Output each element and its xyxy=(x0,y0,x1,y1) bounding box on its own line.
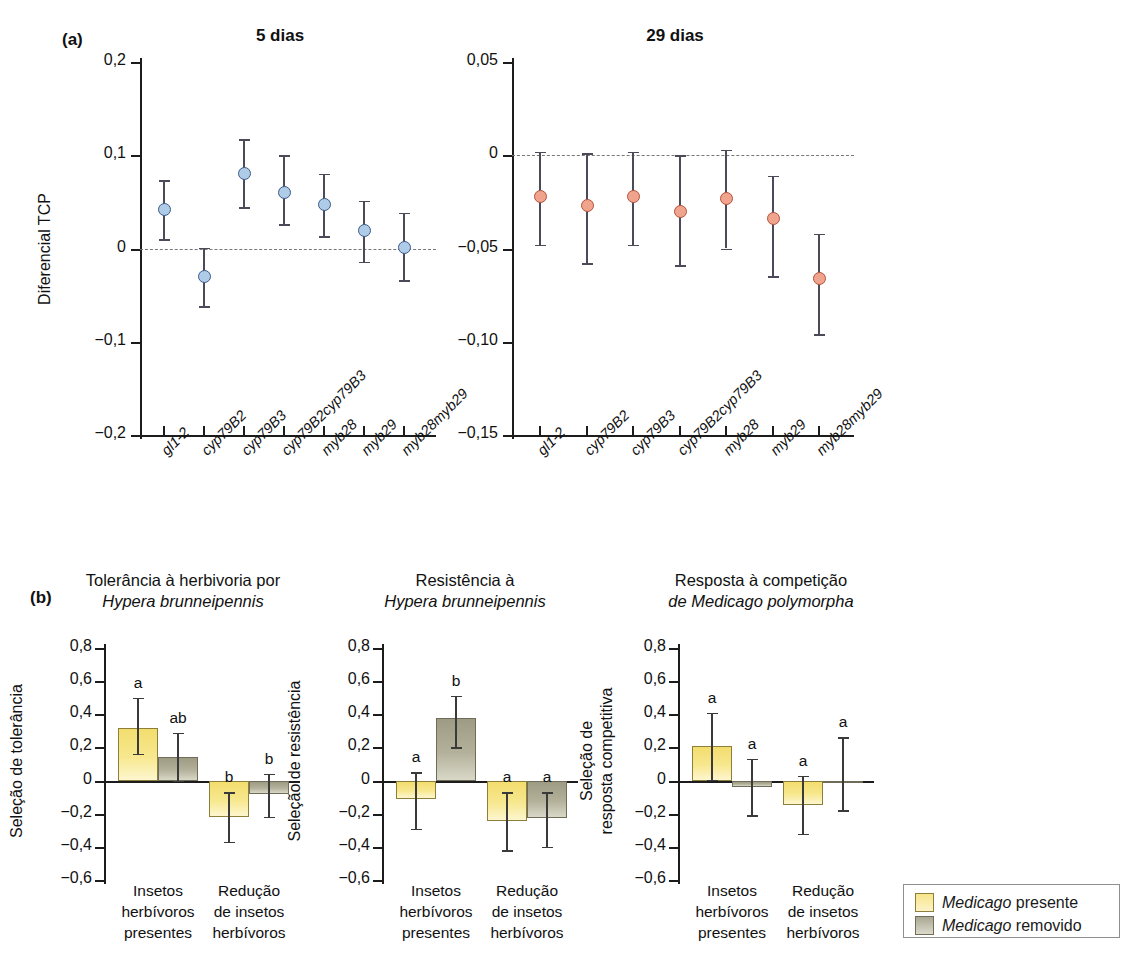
panel-b-sig-letter-0-0-0: a xyxy=(118,674,158,692)
panel-b-errorbar-cap-top-0-0-1 xyxy=(173,733,184,734)
panel-b-title-0: Tolerância à herbivoria por xyxy=(48,570,318,591)
panel-a-xtick-label-1-2: cyp79B3 xyxy=(627,407,678,458)
panel-a-xtick-label-1-3: cyp79B2cyp79B3 xyxy=(674,367,765,458)
legend-swatch-medicago-presente xyxy=(915,893,934,912)
panel-b-ytick-1-6 xyxy=(373,847,382,849)
panel-b-errorbar-cap-top-0-1-0 xyxy=(224,792,235,793)
panel-b-y-axis-1 xyxy=(382,644,384,884)
panel-a-errorbar-cap-top-1-1 xyxy=(582,153,593,154)
panel-b-errorbar-2-1-0 xyxy=(802,776,803,834)
panel-a-xtick-1-1 xyxy=(586,426,588,435)
panel-a-ytick-0-1 xyxy=(131,155,140,157)
panel-b-ytick-label-1-5: −0,2 xyxy=(308,803,370,821)
panel-a-errorbar-cap-top-0-2 xyxy=(239,139,250,140)
panel-b-title-1: Resistência à xyxy=(330,570,600,591)
panel-b-sig-letter-1-0-1: b xyxy=(436,672,476,690)
panel-a-datapoint-1-4 xyxy=(720,192,733,205)
panel-a-errorbar-cap-bottom-1-6 xyxy=(814,334,825,335)
panel-b-errorbar-cap-bottom-0-0-0 xyxy=(133,754,144,755)
panel-a-ytick-label-1-2: −0,05 xyxy=(426,238,498,256)
panel-b-ylabel-0: Seleção de tolerância xyxy=(8,648,26,874)
panel-b-errorbar-0-0-1 xyxy=(177,733,178,781)
panel-a-title-1: 29 dias xyxy=(512,26,838,46)
panel-b-sig-letter-2-1-0: a xyxy=(783,752,823,770)
panel-a-ytick-1-0 xyxy=(503,62,512,64)
panel-b-ytick-label-0-7: −0,6 xyxy=(30,869,92,887)
panel-a-errorbar-cap-bottom-0-0 xyxy=(159,239,170,240)
panel-a-xtick-label-1-1: cyp79B2 xyxy=(581,407,632,458)
panel-b-errorbar-0-1-0 xyxy=(228,792,229,842)
panel-b-errorbar-cap-top-2-0-1 xyxy=(747,759,758,760)
panel-b-sig-letter-2-0-1: a xyxy=(732,735,772,753)
panel-b-errorbar-cap-bottom-2-0-1 xyxy=(747,815,758,816)
panel-b-errorbar-cap-bottom-0-1-1 xyxy=(264,817,275,818)
panel-b-ytick-label-1-4: 0 xyxy=(308,770,370,788)
panel-a-ytick-0-0 xyxy=(131,62,140,64)
panel-a-ytick-label-1-0: 0,05 xyxy=(426,51,498,69)
panel-b-errorbar-cap-bottom-1-1-0 xyxy=(502,850,513,851)
panel-a-datapoint-0-1 xyxy=(198,270,211,283)
panel-b-ytick-0-6 xyxy=(95,847,104,849)
panel-a-ytick-0-2 xyxy=(131,249,140,251)
panel-b-title-2: Resposta à competição xyxy=(626,570,896,591)
panel-b-ylabel-2: Seleção de xyxy=(578,648,596,874)
panel-a-errorbar-cap-top-1-3 xyxy=(675,155,686,156)
panel-b-subtitle-0: Hypera brunneipennis xyxy=(48,591,318,612)
panel-b-ytick-2-3 xyxy=(669,747,678,749)
legend-swatch-medicago-removido xyxy=(915,916,934,935)
panel-b-errorbar-1-1-1 xyxy=(546,792,547,847)
panel-b-errorbar-cap-bottom-0-0-1 xyxy=(173,781,184,782)
panel-b-errorbar-cap-bottom-2-1-1 xyxy=(838,810,849,811)
panel-a-ytick-1-1 xyxy=(503,155,512,157)
panel-a-errorbar-cap-top-1-2 xyxy=(628,152,639,153)
panel-a-xtick-1-3 xyxy=(679,426,681,435)
panel-a-errorbar-cap-top-1-4 xyxy=(721,150,732,151)
legend-item-medicago-removido: Medicago removido xyxy=(915,916,1082,935)
panel-b-errorbar-cap-top-2-1-1 xyxy=(838,737,849,738)
panel-b-ytick-label-1-0: 0,8 xyxy=(308,637,370,655)
panel-a-errorbar-1-5 xyxy=(772,176,773,277)
panel-b-subtitle-italic-0: Hypera brunneipennis xyxy=(102,592,263,610)
panel-a-datapoint-0-5 xyxy=(358,224,371,237)
panel-b-subtitle-1: Hypera brunneipennis xyxy=(330,591,600,612)
panel-b-ytick-label-1-6: −0,4 xyxy=(308,836,370,854)
panel-a-errorbar-cap-bottom-1-3 xyxy=(675,265,686,266)
panel-a-errorbar-cap-top-1-5 xyxy=(768,176,779,177)
panel-a-ytick-1-2 xyxy=(503,249,512,251)
panel-a-xtick-label-0-5: myb29 xyxy=(358,416,400,458)
panel-b-group-label-2-1-2: herbívoros xyxy=(765,924,881,943)
panel-a-datapoint-0-0 xyxy=(158,203,171,216)
panel-b-ytick-0-5 xyxy=(95,814,104,816)
panel-a-errorbar-cap-bottom-0-3 xyxy=(279,224,290,225)
panel-a-ytick-label-1-4: −0,15 xyxy=(426,424,498,442)
panel-b-sig-letter-0-0-1: ab xyxy=(158,709,198,727)
panel-b-ytick-0-0 xyxy=(95,648,104,650)
panel-b-ytick-2-2 xyxy=(669,714,678,716)
panel-a-xtick-1-2 xyxy=(632,426,634,435)
panel-a-xtick-0-5 xyxy=(363,426,365,435)
panel-a-errorbar-cap-bottom-1-0 xyxy=(535,245,546,246)
panel-a-xtick-0-6 xyxy=(403,426,405,435)
panel-a-datapoint-1-0 xyxy=(534,190,547,203)
panel-b-y-axis-2 xyxy=(678,644,680,884)
panel-b-sig-letter-1-1-0: a xyxy=(487,768,527,786)
panel-b-ytick-1-4 xyxy=(373,781,382,783)
panel-a-datapoint-1-3 xyxy=(674,205,687,218)
panel-b-errorbar-0-1-1 xyxy=(268,774,269,817)
panel-a-datapoint-0-6 xyxy=(398,241,411,254)
panel-b-errorbar-cap-top-1-1-1 xyxy=(542,792,553,793)
panel-b-errorbar-cap-top-1-1-0 xyxy=(502,792,513,793)
panel-a-ytick-label-0-0: 0,2 xyxy=(54,51,126,69)
panel-a-errorbar-cap-bottom-0-1 xyxy=(199,306,210,307)
panel-a-errorbar-cap-bottom-0-2 xyxy=(239,207,250,208)
panel-b-ytick-1-2 xyxy=(373,714,382,716)
panel-a-errorbar-cap-bottom-0-5 xyxy=(359,262,370,263)
panel-a-ytick-1-3 xyxy=(503,342,512,344)
panel-b-ytick-label-0-4: 0 xyxy=(30,770,92,788)
panel-a-ytick-label-0-3: −0,1 xyxy=(54,331,126,349)
panel-a-datapoint-1-5 xyxy=(767,212,780,225)
panel-b-errorbar-cap-bottom-1-0-0 xyxy=(411,829,422,830)
panel-a-errorbar-cap-top-1-6 xyxy=(814,234,825,235)
panel-b-group-label-1-1-2: herbívoros xyxy=(469,924,585,943)
panel-b-group-label-0-1-2: herbívoros xyxy=(191,924,307,943)
